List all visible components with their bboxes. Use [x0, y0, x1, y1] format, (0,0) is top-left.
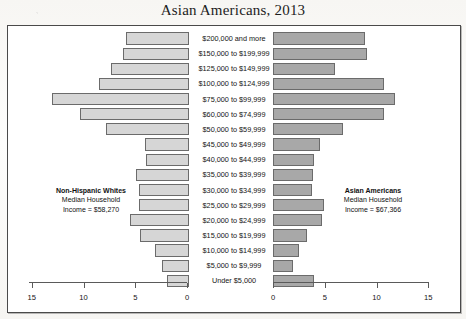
left-axis-tick-label-3: 0 [175, 293, 199, 302]
category-label: $35,000 to $39,999 [179, 167, 289, 182]
category-label: $60,000 to $74,999 [179, 107, 289, 122]
chart-row: $60,000 to $74,999 [8, 107, 460, 122]
left-axis-tick-2 [135, 283, 136, 288]
annotation-right-line3: Income = $67,366 [308, 205, 438, 214]
chart-row: $5,000 to $9,999 [8, 258, 460, 273]
chart-row: $200,000 and more [8, 31, 460, 46]
annotation-asian-americans: Asian Americans Median Household Income … [308, 186, 438, 214]
left-axis-tick-label-2: 5 [123, 293, 147, 302]
category-label: $75,000 to $99,999 [179, 92, 289, 107]
chart-row: $20,000 to $24,999 [8, 213, 460, 228]
annotation-right-title: Asian Americans [308, 186, 438, 195]
chart-row: $15,000 to $19,999 [8, 228, 460, 243]
bar-non-hispanic-whites [80, 108, 189, 120]
right-axis-tick-label-2: 10 [365, 293, 389, 302]
category-label: $30,000 to $34,999 [179, 183, 289, 198]
annotation-right-line2: Median Household [308, 195, 438, 204]
chart-row: $125,000 to $149,999 [8, 61, 460, 76]
category-label: $10,000 to $14,999 [179, 243, 289, 258]
annotation-left-line2: Median Household [26, 195, 156, 204]
category-label: $5,000 to $9,999 [179, 258, 289, 273]
annotation-non-hispanic-whites: Non-Hispanic Whites Median Household Inc… [26, 186, 156, 214]
right-axis-tick-2 [377, 283, 378, 288]
category-label: $100,000 to $124,999 [179, 76, 289, 91]
annotation-left-title: Non-Hispanic Whites [26, 186, 156, 195]
plot-area: $200,000 and more$150,000 to $199,999$12… [8, 26, 460, 312]
right-axis-tick-1 [325, 283, 326, 288]
chart-row: $50,000 to $59,999 [8, 122, 460, 137]
chart-row: $150,000 to $199,999 [8, 46, 460, 61]
left-axis-tick-3 [187, 283, 188, 288]
right-axis-tick-0 [273, 283, 274, 288]
chart-row: $40,000 to $44,999 [8, 152, 460, 167]
category-label: $40,000 to $44,999 [179, 152, 289, 167]
figure-title: Asian Americans, 2013 [0, 2, 466, 19]
chart-row: $75,000 to $99,999 [8, 92, 460, 107]
right-axis-tick-label-1: 5 [313, 293, 337, 302]
category-label: $150,000 to $199,999 [179, 46, 289, 61]
chart-row: $100,000 to $124,999 [8, 76, 460, 91]
right-axis-tick-label-3: 15 [416, 293, 440, 302]
category-label: $50,000 to $59,999 [179, 122, 289, 137]
chart-row: $10,000 to $14,999 [8, 243, 460, 258]
right-axis-tick-3 [428, 283, 429, 288]
bar-non-hispanic-whites [52, 93, 189, 105]
left-axis-tick-1 [84, 283, 85, 288]
left-axis-tick-label-1: 10 [72, 293, 96, 302]
category-label: $45,000 to $49,999 [179, 137, 289, 152]
right-axis-tick-label-0: 0 [261, 293, 285, 302]
right-axis-line [273, 282, 429, 283]
category-label: $15,000 to $19,999 [179, 228, 289, 243]
bar-non-hispanic-whites [111, 63, 189, 75]
category-label: $200,000 and more [179, 31, 289, 46]
bar-asian-americans [273, 108, 384, 120]
left-axis-line [29, 282, 187, 283]
left-axis-tick-0 [32, 283, 33, 288]
category-label: $20,000 to $24,999 [179, 213, 289, 228]
left-axis-tick-label-0: 15 [20, 293, 44, 302]
annotation-left-line3: Income = $58,270 [26, 205, 156, 214]
bar-non-hispanic-whites [106, 123, 189, 135]
chart-frame: $200,000 and more$150,000 to $199,999$12… [7, 25, 461, 313]
chart-row: $45,000 to $49,999 [8, 137, 460, 152]
category-label: $125,000 to $149,999 [179, 61, 289, 76]
chart-row: Under $5,000 [8, 273, 460, 288]
category-label: $25,000 to $29,999 [179, 198, 289, 213]
chart-row: $35,000 to $39,999 [8, 167, 460, 182]
bar-asian-americans [273, 93, 395, 105]
bar-non-hispanic-whites [99, 78, 189, 90]
page-background: Asian Americans, 2013 $200,000 and more$… [0, 0, 466, 319]
bar-asian-americans [273, 78, 384, 90]
